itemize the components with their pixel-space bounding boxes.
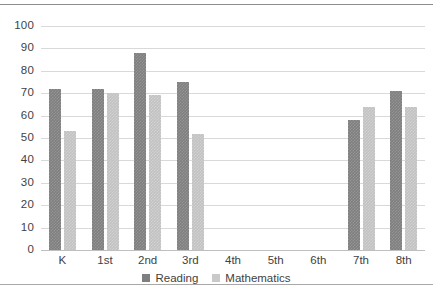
bar-chart: 0102030405060708090100 K1st2nd3rd4th5th6… <box>0 10 433 280</box>
gridline <box>41 48 425 49</box>
page-top-rule <box>0 4 433 5</box>
y-axis-tick-label: 40 <box>4 154 34 165</box>
bar-7th-mathematics <box>363 107 375 250</box>
legend-swatch-icon <box>212 274 220 282</box>
x-axis-tick-label-4th: 4th <box>212 254 255 267</box>
x-axis-tick-label-6th: 6th <box>297 254 340 267</box>
bar-2nd-mathematics <box>149 95 161 250</box>
bar-1st-reading <box>92 89 104 250</box>
gridline <box>41 26 425 27</box>
bar-8th-reading <box>390 91 402 250</box>
bar-1st-mathematics <box>107 93 119 250</box>
bar-3rd-mathematics <box>192 134 204 250</box>
y-axis-tick-label: 70 <box>4 87 34 98</box>
bar-7th-reading <box>348 120 360 250</box>
plot-area <box>41 26 425 250</box>
chart-legend: ReadingMathematics <box>0 272 433 284</box>
x-axis-tick-label-7th: 7th <box>340 254 383 267</box>
y-axis-tick-label: 90 <box>4 42 34 53</box>
bar-k-mathematics <box>64 131 76 250</box>
x-axis-tick-label-2nd: 2nd <box>126 254 169 267</box>
bar-8th-mathematics <box>405 107 417 250</box>
y-axis-tick-label: 20 <box>4 199 34 210</box>
legend-entry-reading[interactable]: Reading <box>142 272 198 284</box>
legend-entry-mathematics[interactable]: Mathematics <box>212 272 290 284</box>
page: 0102030405060708090100 K1st2nd3rd4th5th6… <box>0 0 433 288</box>
x-axis-line <box>41 250 425 251</box>
legend-label: Reading <box>155 272 198 284</box>
x-axis-tick-label-3rd: 3rd <box>169 254 212 267</box>
bar-3rd-reading <box>177 82 189 250</box>
legend-swatch-icon <box>142 274 150 282</box>
y-axis-tick-label: 0 <box>4 244 34 255</box>
gridline <box>41 71 425 72</box>
y-axis-tick-label: 10 <box>4 222 34 233</box>
x-axis-tick-label-5th: 5th <box>254 254 297 267</box>
page-bottom-rule <box>0 284 433 285</box>
y-axis-tick-label: 30 <box>4 177 34 188</box>
y-axis-tick-label: 100 <box>4 20 34 31</box>
x-axis-tick-label-1st: 1st <box>84 254 127 267</box>
y-axis-tick-label: 60 <box>4 110 34 121</box>
bar-2nd-reading <box>134 53 146 250</box>
x-axis-tick-label-8th: 8th <box>382 254 425 267</box>
y-axis-tick-label: 50 <box>4 132 34 143</box>
y-axis-tick-label: 80 <box>4 65 34 76</box>
bar-k-reading <box>49 89 61 250</box>
legend-label: Mathematics <box>225 272 290 284</box>
x-axis-tick-label-k: K <box>41 254 84 267</box>
